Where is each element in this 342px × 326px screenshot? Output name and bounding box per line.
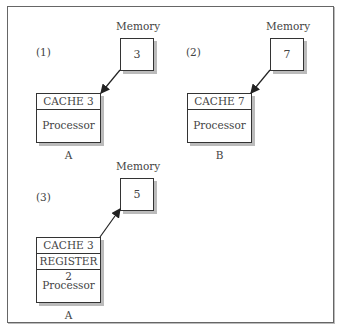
panel-1-arrow [101,70,120,93]
panel-2-arrow [251,70,270,93]
panel-3-arrow [100,209,120,237]
arrows-layer [0,0,342,326]
